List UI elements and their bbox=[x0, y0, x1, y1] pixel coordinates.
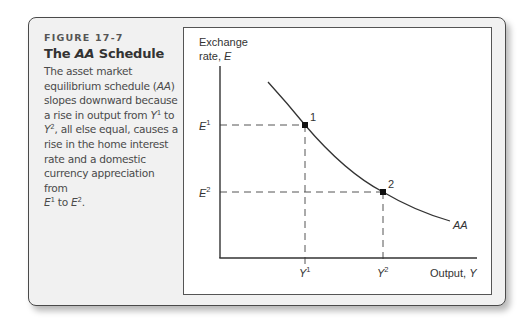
point-1-marker bbox=[302, 122, 308, 128]
chart-svg: 1 2 Exchange rate, E E1 E2 Y1 Y2 Output,… bbox=[0, 0, 532, 325]
e2-tick-label: E2 bbox=[199, 185, 211, 199]
point-2-marker bbox=[380, 189, 386, 195]
y-axis-label-line1: Exchange bbox=[199, 36, 248, 48]
y1-tick-label: Y1 bbox=[299, 265, 311, 279]
x-axis-label: Output, Y bbox=[430, 267, 477, 279]
aa-curve bbox=[268, 82, 450, 221]
e1-tick-label: E1 bbox=[199, 118, 211, 132]
point-1-label: 1 bbox=[310, 111, 316, 123]
aa-curve-label: AA bbox=[452, 219, 468, 231]
y-axis-label-line2: rate, E bbox=[199, 50, 232, 62]
y2-tick-label: Y2 bbox=[377, 265, 389, 279]
point-2-label: 2 bbox=[388, 178, 394, 190]
